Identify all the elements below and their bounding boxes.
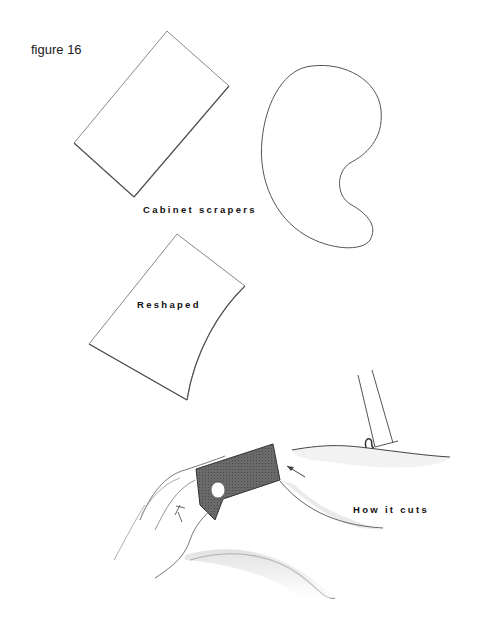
caption-reshaped: Reshaped xyxy=(137,299,201,310)
caption-cabinet-scrapers: Cabinet scrapers xyxy=(143,204,257,215)
caption-how-it-cuts: How it cuts xyxy=(353,504,429,515)
kidney-scraper xyxy=(261,65,381,247)
reshaped-scraper xyxy=(89,234,245,400)
figure-illustration xyxy=(0,0,477,634)
hands-scraping xyxy=(114,444,383,598)
rectangular-scraper xyxy=(74,31,229,197)
cutting-detail xyxy=(292,370,450,467)
